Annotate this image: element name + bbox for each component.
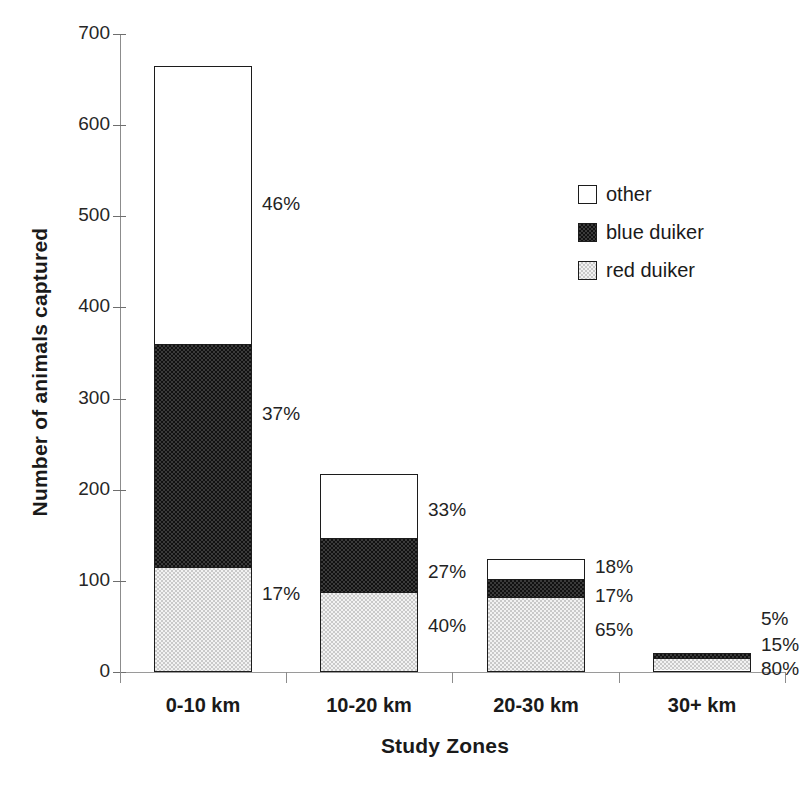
pct-label-blue-0-10km: 37% bbox=[262, 403, 300, 425]
y-axis-title: Number of animals captured bbox=[28, 162, 52, 582]
y-tick-label-200: 200 bbox=[50, 478, 110, 500]
legend-item-blue-duiker[interactable]: blue duiker bbox=[578, 220, 704, 244]
x-tick-3 bbox=[619, 672, 620, 683]
x-axis-title: Study Zones bbox=[100, 734, 790, 758]
x-tick-1 bbox=[286, 672, 287, 683]
y-tick-label-700: 700 bbox=[50, 22, 110, 44]
legend-swatch-other-icon bbox=[578, 185, 597, 204]
pct-label-blue-20-30km: 17% bbox=[595, 585, 633, 607]
bar-stack-20-30km[interactable] bbox=[487, 559, 585, 672]
legend-item-red-duiker[interactable]: red duiker bbox=[578, 258, 704, 282]
pct-label-red-0-10km: 17% bbox=[262, 583, 300, 605]
chart-legend: other blue duiker red duiker bbox=[578, 182, 704, 296]
bar-group-30plus-km[interactable] bbox=[653, 34, 751, 672]
y-axis-line bbox=[120, 34, 121, 672]
legend-item-other[interactable]: other bbox=[578, 182, 704, 206]
x-category-label-20-30km: 20-30 km bbox=[487, 694, 585, 717]
bar-segment-red-duiker-20-30km[interactable] bbox=[488, 598, 584, 671]
y-tick-label-600: 600 bbox=[50, 113, 110, 135]
pct-label-other-10-20km: 33% bbox=[428, 499, 466, 521]
bar-group-10-20km[interactable] bbox=[320, 34, 418, 672]
bar-segment-other-10-20km[interactable] bbox=[321, 475, 417, 539]
stacked-bar-chart: Number of animals captured Study Zones 7… bbox=[0, 0, 800, 795]
x-category-label-10-20km: 10-20 km bbox=[320, 694, 418, 717]
pct-label-other-0-10km: 46% bbox=[262, 193, 300, 215]
bar-group-0-10km[interactable] bbox=[154, 34, 252, 672]
legend-label-red-duiker: red duiker bbox=[606, 259, 695, 282]
bar-segment-blue-duiker-10-20km[interactable] bbox=[321, 539, 417, 592]
bar-segment-red-duiker-30plus-km[interactable] bbox=[654, 659, 750, 670]
bar-stack-10-20km[interactable] bbox=[320, 474, 418, 672]
legend-swatch-red-duiker-icon bbox=[578, 261, 597, 280]
pct-label-red-20-30km: 65% bbox=[595, 619, 633, 641]
bar-segment-blue-duiker-0-10km[interactable] bbox=[155, 345, 251, 568]
bar-stack-30plus-km[interactable] bbox=[653, 653, 751, 672]
y-tick-label-400: 400 bbox=[50, 295, 110, 317]
bar-segment-red-duiker-0-10km[interactable] bbox=[155, 568, 251, 671]
pct-label-blue-30plus-km: 15% bbox=[761, 634, 799, 656]
legend-label-blue-duiker: blue duiker bbox=[606, 221, 704, 244]
bar-segment-other-0-10km[interactable] bbox=[155, 67, 251, 345]
bar-segment-red-duiker-10-20km[interactable] bbox=[321, 593, 417, 671]
bar-group-20-30km[interactable] bbox=[487, 34, 585, 672]
y-tick-label-100: 100 bbox=[50, 569, 110, 591]
pct-label-other-30plus-km: 5% bbox=[761, 608, 788, 630]
pct-label-red-30plus-km: 80% bbox=[761, 658, 799, 680]
legend-label-other: other bbox=[606, 183, 652, 206]
plot-area: 700 600 500 400 300 200 100 0 bbox=[120, 34, 785, 672]
y-tick-label-0: 0 bbox=[50, 660, 110, 682]
pct-label-blue-10-20km: 27% bbox=[428, 561, 466, 583]
pct-label-other-20-30km: 18% bbox=[595, 556, 633, 578]
x-category-label-0-10km: 0-10 km bbox=[154, 694, 252, 717]
bar-segment-blue-duiker-20-30km[interactable] bbox=[488, 580, 584, 599]
bar-segment-other-20-30km[interactable] bbox=[488, 560, 584, 580]
x-tick-2 bbox=[452, 672, 453, 683]
x-tick-0 bbox=[120, 672, 121, 683]
bar-stack-0-10km[interactable] bbox=[154, 66, 252, 672]
x-category-label-30plus-km: 30+ km bbox=[653, 694, 751, 717]
pct-label-red-10-20km: 40% bbox=[428, 615, 466, 637]
y-tick-label-300: 300 bbox=[50, 387, 110, 409]
legend-swatch-blue-duiker-icon bbox=[578, 223, 597, 242]
y-tick-label-500: 500 bbox=[50, 204, 110, 226]
